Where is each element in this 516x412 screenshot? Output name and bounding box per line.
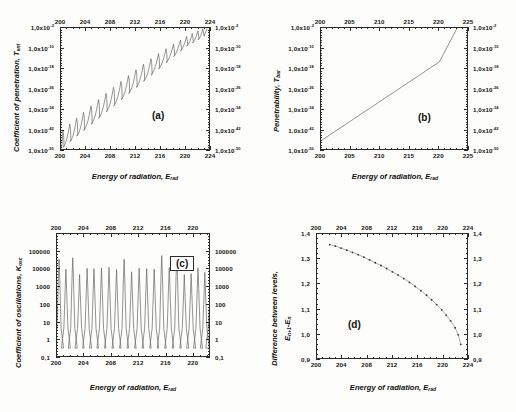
ytick-minor <box>208 339 210 340</box>
ytick-minor <box>208 254 210 255</box>
ytick-minor <box>466 273 468 274</box>
ytick-minor <box>208 124 210 125</box>
ytick-minor <box>60 130 62 131</box>
panel-d: Difference between levels, En+1-En (d) E… <box>258 206 516 412</box>
ytick-minor <box>466 263 468 264</box>
ytick-minor <box>466 268 468 269</box>
ytick-minor <box>208 132 210 133</box>
xtick-minor <box>148 27 149 29</box>
ytick-minor <box>56 295 58 296</box>
ytick-minor <box>56 245 58 246</box>
yticklabel-right: 1,0x10-26 <box>215 85 241 92</box>
xtick-minor <box>172 233 173 235</box>
ytick-minor <box>208 40 210 41</box>
xtick-minor <box>391 27 392 29</box>
xtick-minor <box>405 233 406 235</box>
xticklabel-top: 220 <box>188 224 199 231</box>
xtick-minor <box>443 233 444 235</box>
ytick-minor <box>208 78 210 79</box>
xtick-minor <box>83 355 84 357</box>
xtick-minor <box>91 27 92 29</box>
figure-grid: Coefficient of penetration, Tent (a) Ene… <box>0 0 516 412</box>
ytick-minor <box>320 114 322 115</box>
ytick-minor <box>208 48 210 49</box>
ytick-minor <box>320 58 322 59</box>
xticklabel-bottom: 225 <box>463 152 474 159</box>
ytick-minor <box>320 142 322 143</box>
ytick-minor <box>316 344 318 345</box>
xticklabel-bottom: 200 <box>311 361 322 368</box>
xtick-minor <box>456 27 457 29</box>
ytick-minor <box>56 292 58 293</box>
ytick-minor <box>60 73 62 74</box>
xtick-minor <box>200 355 201 357</box>
xtick-minor <box>449 233 450 235</box>
ytick-minor <box>466 304 468 305</box>
ytick-minor <box>466 30 468 31</box>
ytick-minor <box>56 263 58 264</box>
ytick-minor <box>316 359 318 360</box>
ytick-minor <box>320 112 322 113</box>
ytick-minor <box>320 40 322 41</box>
panel-d-ylabel-line2: En+1-En <box>283 317 292 342</box>
ytick-minor <box>208 145 210 146</box>
yticklabel-right: 1000 <box>215 283 229 290</box>
ytick-minor <box>208 122 210 123</box>
xtick-minor <box>70 355 71 357</box>
ytick-minor <box>466 89 468 90</box>
ytick-minor <box>320 78 322 79</box>
ytick-minor <box>320 140 322 141</box>
yticklabel-right: 100000 <box>215 247 236 254</box>
panel-a-xlabel: Energy of radiation, Erad <box>92 172 178 181</box>
ytick-minor <box>320 63 322 64</box>
xtick-minor <box>341 357 342 359</box>
ytick-minor <box>208 35 210 36</box>
ytick-minor <box>316 258 318 259</box>
ytick-minor <box>466 94 468 95</box>
ytick-minor <box>316 268 318 269</box>
xticklabel-bottom: 220 <box>180 152 191 159</box>
ytick-minor <box>466 55 468 56</box>
panel-a-frame <box>60 27 210 150</box>
xtick-minor <box>436 233 437 235</box>
yticklabel-left: 1,0x10-18 <box>258 64 314 71</box>
ytick-minor <box>466 344 468 345</box>
xticklabel-top: 210 <box>374 18 385 25</box>
xtick-minor <box>361 27 362 29</box>
panel-a: Coefficient of penetration, Tent (a) Ene… <box>0 0 258 206</box>
xtick-minor <box>373 357 374 359</box>
xticklabel-bottom: 205 <box>344 152 355 159</box>
ytick-minor <box>466 140 468 141</box>
xtick-minor <box>85 148 86 150</box>
xtick-minor <box>116 27 117 29</box>
xtick-minor <box>450 148 451 150</box>
ytick-minor <box>466 258 468 259</box>
ytick-minor <box>320 109 322 110</box>
yticklabel-left: 1 <box>0 336 50 343</box>
panel-c: Coefficient of oscillations, Kosc (c) En… <box>0 206 258 412</box>
ytick-minor <box>466 91 468 92</box>
yticklabel-right: 1,0x10-2 <box>473 23 496 30</box>
yticklabel-left: 1,0x10-34 <box>258 105 314 112</box>
ytick-minor <box>466 106 468 107</box>
ytick-minor <box>208 348 210 349</box>
ytick-minor <box>466 132 468 133</box>
ytick-minor <box>208 106 210 107</box>
xtick-minor <box>98 148 99 150</box>
xtick-minor <box>338 27 339 29</box>
ytick-minor <box>208 322 210 323</box>
ytick-minor <box>208 91 210 92</box>
ytick-minor <box>60 55 62 56</box>
xticklabel-top: 216 <box>155 18 166 25</box>
xtick-minor <box>456 148 457 150</box>
xtick-minor <box>415 27 416 29</box>
xtick-minor <box>373 148 374 150</box>
xtick-minor <box>129 27 130 29</box>
yticklabel-left: 1,0x10-26 <box>0 85 54 92</box>
xtick-minor <box>66 148 67 150</box>
xtick-minor <box>462 357 463 359</box>
ytick-minor <box>60 142 62 143</box>
xtick-minor <box>392 357 393 359</box>
xtick-minor <box>138 233 139 235</box>
ytick-minor <box>208 245 210 246</box>
